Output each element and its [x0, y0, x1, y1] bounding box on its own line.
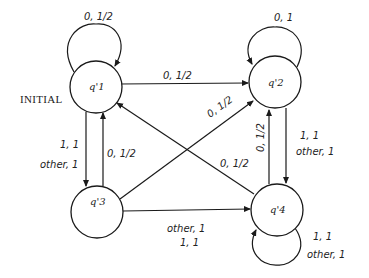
state-q3-label: q'3 — [90, 196, 106, 207]
edge-q3-q2 — [120, 101, 253, 199]
initial-state-label: INITIAL — [20, 93, 62, 105]
edge-q3-q2-label: 0, 1/2 — [205, 94, 235, 120]
edge-q4-self-label-2: other, 1 — [307, 249, 345, 260]
state-q1-label: q'1 — [89, 81, 105, 92]
edge-q1-q2 — [119, 83, 248, 84]
edge-q3-q1-label: 0, 1/2 — [107, 148, 136, 159]
edge-q4-q1 — [117, 103, 254, 194]
edge-q2-q4-label-1: 1, 1 — [300, 130, 319, 141]
edge-q2-q4-label-2: other, 1 — [296, 146, 334, 157]
state-q3 — [71, 186, 123, 238]
edge-q1-self-label: 0, 1/2 — [84, 11, 113, 22]
edge-q4-q2-label: 0, 1/2 — [255, 123, 266, 152]
edge-q3-q4-label-2: 1, 1 — [180, 237, 199, 248]
edge-q1-q3-label-2: other, 1 — [40, 159, 78, 170]
edge-q3-q4 — [123, 209, 250, 211]
edge-q1-q2-label: 0, 1/2 — [163, 70, 192, 81]
edge-q3-q4-label-1: other, 1 — [167, 223, 205, 234]
state-q4-label: q'4 — [270, 204, 286, 215]
edge-q1-q3-label-1: 1, 1 — [60, 139, 79, 150]
edge-q4-self-label-1: 1, 1 — [313, 231, 332, 242]
state-q2-label: q'2 — [268, 77, 284, 88]
edge-q4-q1-label: 0, 1/2 — [220, 158, 249, 169]
state-diagram: q'1 q'2 q'3 q'4 INITIAL 0, 1/2 0, 1 0, 1… — [0, 0, 369, 278]
edge-q2-self-label: 0, 1 — [274, 12, 293, 23]
